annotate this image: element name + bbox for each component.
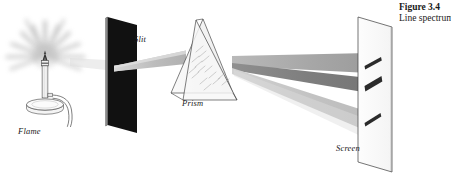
slit-card-edge: [106, 17, 108, 126]
screen: [358, 17, 392, 172]
label-prism: Prism: [182, 98, 203, 108]
figure-caption-description: Line spectrum: [399, 13, 451, 24]
label-screen: Screen: [336, 143, 360, 153]
screen-face: [358, 17, 392, 172]
label-slit: Slit: [134, 34, 146, 44]
figure-caption: Figure 3.4 Line spectrum: [399, 2, 451, 24]
slit-card: [106, 17, 137, 133]
burner-collar-band: [41, 63, 48, 64]
slit-card-face: [108, 17, 138, 133]
prism-front-face: [183, 20, 237, 100]
label-flame: Flame: [18, 126, 41, 136]
burner-barrel: [42, 66, 48, 98]
burner-gas-inlet: [48, 93, 53, 97]
figure-caption-title: Figure 3.4: [399, 2, 451, 13]
